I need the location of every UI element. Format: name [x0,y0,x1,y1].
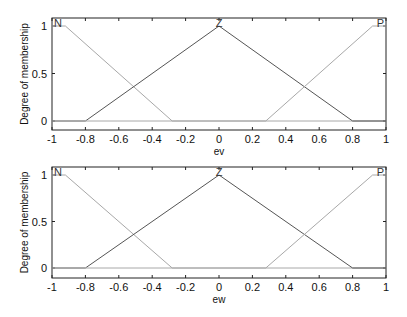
x-tick-label: -0.8 [76,281,95,293]
y-axis-label: Degree of membership [19,23,30,125]
mf-label-p: P [377,17,384,29]
x-tick-label: -1 [47,281,57,293]
y-axis-label: Degree of membership [19,171,30,273]
y-tick-label: 0.5 [32,68,47,80]
mf-label-p: P [377,166,384,178]
mf-label-n: N [54,17,62,29]
mf-line-z [52,26,386,121]
y-tick-label: 1 [41,169,47,181]
x-tick-label: 0 [216,281,222,293]
y-tick-label: 0 [41,115,47,127]
membership-function-plots: -1-0.8-0.6-0.4-0.200.20.40.60.8100.51evD… [0,0,407,317]
x-tick-label: 0.2 [245,133,260,145]
x-tick-label: 0.8 [345,281,360,293]
x-axis-label: ew [213,294,227,305]
x-tick-label: -0.4 [143,133,162,145]
y-tick-label: 0 [41,262,47,274]
mf-label-n: N [54,166,62,178]
mf-label-z: Z [216,166,223,178]
x-tick-label: 1 [383,133,389,145]
x-tick-label: -0.6 [109,281,128,293]
x-tick-label: 0.8 [345,133,360,145]
mf-label-z: Z [216,17,223,29]
y-tick-label: 0.5 [32,216,47,228]
mf-line-n [52,26,386,121]
x-tick-label: -0.2 [176,133,195,145]
mf-line-z [52,175,386,268]
axes-frame [52,18,386,130]
x-tick-label: 1 [383,281,389,293]
x-tick-label: -0.2 [176,281,195,293]
x-tick-label: -0.6 [109,133,128,145]
mf-line-p [52,175,386,268]
x-tick-label: -1 [47,133,57,145]
x-tick-label: 0.6 [312,133,327,145]
x-tick-label: 0.4 [278,133,293,145]
x-tick-label: 0.2 [245,281,260,293]
x-tick-label: 0.4 [278,281,293,293]
mf-line-n [52,175,386,268]
x-tick-label: -0.8 [76,133,95,145]
x-tick-label: -0.4 [143,281,162,293]
x-tick-label: 0.6 [312,281,327,293]
axes-frame [52,167,386,278]
y-tick-label: 1 [41,20,47,32]
x-axis-label: ev [214,146,225,157]
mf-line-p [52,26,386,121]
x-tick-label: 0 [216,133,222,145]
